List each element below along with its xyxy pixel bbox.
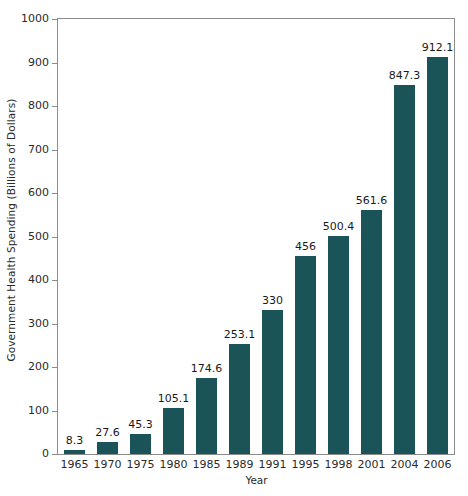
- x-axis-ticks: 1965197019751980198519891991199519982001…: [58, 458, 454, 474]
- x-tick-label: 1975: [127, 458, 155, 471]
- bar-group[interactable]: 456: [295, 19, 317, 454]
- x-tick-label: 2006: [424, 458, 452, 471]
- bar-value-label: 174.6: [191, 362, 223, 375]
- bar-value-label: 253.1: [224, 328, 256, 341]
- bar[interactable]: [229, 344, 251, 454]
- bar-group[interactable]: 105.1: [163, 19, 185, 454]
- bar[interactable]: [163, 408, 185, 454]
- bar-value-label: 330: [262, 294, 283, 307]
- bar-group[interactable]: 174.6: [196, 19, 218, 454]
- y-tick-label: 600: [28, 186, 49, 199]
- y-tick-label: 200: [28, 360, 49, 373]
- bar-chart: Government Health Spending (Billions of …: [0, 0, 468, 496]
- bar-group[interactable]: 253.1: [229, 19, 251, 454]
- x-tick-label: 1970: [94, 458, 122, 471]
- bar[interactable]: [196, 378, 218, 454]
- bar-group[interactable]: 330: [262, 19, 284, 454]
- x-tick-label: 1991: [259, 458, 287, 471]
- bar[interactable]: [97, 442, 119, 454]
- bar-group[interactable]: 500.4: [328, 19, 350, 454]
- bar-group[interactable]: 45.3: [130, 19, 152, 454]
- bar-value-label: 500.4: [323, 220, 355, 233]
- bar[interactable]: [328, 236, 350, 454]
- bar-value-label: 27.6: [95, 426, 120, 439]
- bar-group[interactable]: 27.6: [97, 19, 119, 454]
- bars-layer: 8.327.645.3105.1174.6253.1330456500.4561…: [58, 19, 454, 454]
- bar-group[interactable]: 8.3: [64, 19, 86, 454]
- x-tick-label: 2004: [391, 458, 419, 471]
- x-tick-label: 1965: [61, 458, 89, 471]
- x-axis-title: Year: [57, 474, 456, 486]
- bar[interactable]: [64, 450, 86, 454]
- bar-value-label: 912.1: [422, 41, 454, 54]
- x-tick-label: 1998: [325, 458, 353, 471]
- bar[interactable]: [295, 256, 317, 454]
- y-tick-label: 0: [42, 447, 49, 460]
- bar-value-label: 45.3: [128, 418, 153, 431]
- bar-value-label: 561.6: [356, 194, 388, 207]
- y-tick-label: 100: [28, 404, 49, 417]
- bar-value-label: 847.3: [389, 69, 421, 82]
- y-tick-label: 300: [28, 317, 49, 330]
- bar-value-label: 8.3: [66, 434, 84, 447]
- x-tick-label: 1980: [160, 458, 188, 471]
- bar-value-label: 105.1: [158, 392, 190, 405]
- bar[interactable]: [427, 57, 449, 454]
- y-axis-title-text: Government Health Spending (Billions of …: [5, 98, 17, 361]
- bar-value-label: 456: [295, 240, 316, 253]
- bar[interactable]: [130, 434, 152, 454]
- x-tick-label: 1989: [226, 458, 254, 471]
- y-tick-label: 1000: [21, 12, 49, 25]
- bar[interactable]: [361, 210, 383, 454]
- bar[interactable]: [394, 85, 416, 454]
- y-tick-label: 700: [28, 143, 49, 156]
- x-tick-label: 2001: [358, 458, 386, 471]
- y-tick-label: 900: [28, 56, 49, 69]
- y-tick-label: 800: [28, 99, 49, 112]
- x-tick-label: 1985: [193, 458, 221, 471]
- bar-group[interactable]: 912.1: [427, 19, 449, 454]
- y-axis-title: Government Health Spending (Billions of …: [0, 0, 22, 460]
- y-tick-label: 400: [28, 273, 49, 286]
- y-tick-label: 500: [28, 230, 49, 243]
- bar[interactable]: [262, 310, 284, 454]
- bar-group[interactable]: 847.3: [394, 19, 416, 454]
- bar-group[interactable]: 561.6: [361, 19, 383, 454]
- x-tick-label: 1995: [292, 458, 320, 471]
